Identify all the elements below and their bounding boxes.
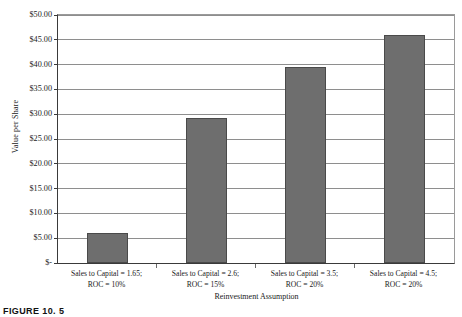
y-axis-tick xyxy=(54,139,58,140)
y-axis-tick-label: $30.00 xyxy=(0,109,52,118)
x-axis-tick-label: Sales to Capital = 3.5;ROC = 20% xyxy=(255,268,354,290)
y-axis-tick xyxy=(54,39,58,40)
y-axis-tick-label: $50.00 xyxy=(0,10,52,19)
x-axis-tick-label-line: Sales to Capital = 4.5; xyxy=(354,268,453,279)
y-axis-tick-label: $35.00 xyxy=(0,84,52,93)
y-axis-tick xyxy=(54,114,58,115)
bar xyxy=(186,118,227,263)
x-axis-tick-label: Sales to Capital = 4.5;ROC = 20% xyxy=(354,268,453,290)
y-axis-tick xyxy=(54,213,58,214)
bar xyxy=(384,35,425,263)
y-axis-tick xyxy=(54,64,58,65)
x-axis-tick-label: Sales to Capital = 1.65;ROC = 10% xyxy=(57,268,156,290)
y-axis-tick-label: $5.00 xyxy=(0,233,52,242)
y-axis-tick-label: $15.00 xyxy=(0,183,52,192)
x-axis-tick-label-line: ROC = 20% xyxy=(354,279,453,290)
y-axis-tick xyxy=(54,15,58,16)
x-axis-tick xyxy=(255,264,256,268)
x-axis-tick-label: Sales to Capital = 2.6;ROC = 15% xyxy=(156,268,255,290)
y-axis-tick-label: $25.00 xyxy=(0,134,52,143)
x-axis-tick-label-line: ROC = 20% xyxy=(255,279,354,290)
y-axis-tick-label: $- xyxy=(0,258,52,267)
y-axis-tick xyxy=(54,238,58,239)
y-axis-tick xyxy=(54,89,58,90)
x-axis-tick-label-line: Sales to Capital = 1.65; xyxy=(57,268,156,279)
y-axis-tick xyxy=(54,263,58,264)
y-axis-tick-labels: $-$5.00$10.00$15.00$20.00$25.00$30.00$35… xyxy=(0,0,52,317)
x-axis-tick-label-line: ROC = 10% xyxy=(57,279,156,290)
gridline xyxy=(58,15,454,16)
y-axis-tick-label: $20.00 xyxy=(0,158,52,167)
y-axis-tick xyxy=(54,163,58,164)
x-axis-tick-label-line: Sales to Capital = 3.5; xyxy=(255,268,354,279)
bar xyxy=(285,67,326,263)
figure-caption: FIGURE 10. 5 xyxy=(3,306,64,316)
x-axis-title: Reinvestment Assumption xyxy=(57,292,456,301)
plot-area xyxy=(57,14,455,264)
x-axis-tick xyxy=(156,264,157,268)
figure-container: Value per Share $-$5.00$10.00$15.00$20.0… xyxy=(0,0,462,317)
x-axis-tick-label-line: ROC = 15% xyxy=(156,279,255,290)
y-axis-tick-label: $10.00 xyxy=(0,208,52,217)
x-axis-tick-label-line: Sales to Capital = 2.6; xyxy=(156,268,255,279)
y-axis-tick-label: $40.00 xyxy=(0,59,52,68)
bar xyxy=(87,233,128,263)
y-axis-tick-label: $45.00 xyxy=(0,34,52,43)
y-axis-tick xyxy=(54,188,58,189)
x-axis-tick xyxy=(354,264,355,268)
